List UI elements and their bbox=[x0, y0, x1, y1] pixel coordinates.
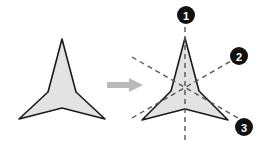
badge-circle-1 bbox=[177, 6, 195, 24]
badge-circle-3 bbox=[235, 118, 253, 136]
right-shape-group bbox=[132, 18, 238, 140]
arrow-group bbox=[107, 78, 143, 92]
transformed-tristar-shape bbox=[142, 38, 228, 120]
left-shape-group bbox=[19, 39, 105, 119]
transformation-arrow-icon bbox=[107, 78, 143, 92]
mirror-label-2[interactable]: 2 bbox=[230, 47, 248, 65]
figure-container: 1 2 3 bbox=[0, 0, 266, 147]
mirror-label-1[interactable]: 1 bbox=[177, 6, 195, 24]
mirror-label-3[interactable]: 3 bbox=[235, 118, 253, 136]
diagram-canvas: 1 2 3 bbox=[0, 0, 266, 147]
original-tristar-shape bbox=[19, 39, 105, 119]
badge-circle-2 bbox=[230, 47, 248, 65]
